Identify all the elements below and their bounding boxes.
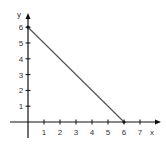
y-tick-label: 5 — [19, 39, 24, 48]
x-tick-label: 4 — [90, 128, 95, 137]
x-tick-label: 7 — [138, 128, 143, 137]
y-axis-arrow-icon — [26, 13, 31, 19]
x-tick-label: 1 — [42, 128, 47, 137]
y-tick-label: 1 — [19, 102, 24, 111]
y-tick-label: 2 — [19, 86, 24, 95]
data-point — [122, 120, 125, 123]
y-tick-label: 3 — [19, 71, 24, 80]
axes: xy — [10, 10, 161, 138]
data-series — [26, 26, 125, 124]
x-axis-arrow-icon — [155, 120, 161, 125]
data-line — [28, 27, 124, 122]
y-axis-label: y — [17, 10, 21, 19]
x-axis-label: x — [150, 128, 154, 137]
y-tick-label: 6 — [19, 23, 24, 32]
data-point — [26, 26, 29, 29]
x-tick-label: 3 — [74, 128, 79, 137]
line-chart: xy 1234567123456 — [0, 0, 166, 144]
x-tick-label: 5 — [106, 128, 111, 137]
y-tick-label: 4 — [19, 55, 24, 64]
x-tick-label: 6 — [122, 128, 127, 137]
x-tick-label: 2 — [58, 128, 63, 137]
